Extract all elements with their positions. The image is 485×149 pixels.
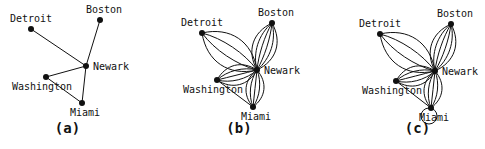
panel-b: DetroitBostonNewarkWashingtonMiami(b) [181, 7, 300, 136]
panel-a: DetroitBostonNewarkWashingtonMiami(a) [10, 4, 129, 136]
node-label-boston: Boston [437, 8, 473, 19]
node-label-detroit: Detroit [359, 18, 401, 29]
edge-detroit-newark [202, 31, 257, 70]
node-newark [254, 67, 260, 73]
edge-boston-newark [257, 23, 272, 70]
node-newark [83, 63, 89, 69]
edge-washington-newark [46, 66, 86, 77]
node-boston [269, 20, 275, 26]
node-miami [428, 105, 434, 111]
edge-detroit-newark [380, 34, 435, 71]
edge-boston-newark [257, 23, 272, 70]
node-miami [250, 104, 256, 110]
edge-detroit-newark [380, 32, 435, 71]
edge-boston-newark [86, 20, 100, 66]
panel-caption: (b) [226, 120, 251, 136]
node-detroit [28, 26, 34, 32]
panel-c: DetroitBostonNewarkWashingtonMiami(c) [359, 8, 478, 136]
node-washington [214, 77, 220, 83]
graph-figure: DetroitBostonNewarkWashingtonMiami(a) De… [0, 0, 485, 149]
node-label-washington: Washington [12, 81, 72, 92]
edge-boston-newark [435, 24, 451, 71]
node-label-newark: Newark [442, 66, 478, 77]
panel-caption: (a) [55, 120, 80, 136]
node-boston [97, 17, 103, 23]
node-boston [448, 21, 454, 27]
node-label-newark: Newark [93, 61, 129, 72]
node-label-detroit: Detroit [181, 17, 223, 28]
node-label-washington: Washington [183, 84, 243, 95]
edge-boston-newark [435, 24, 451, 71]
node-detroit [377, 31, 383, 37]
node-label-boston: Boston [258, 7, 294, 18]
panel-caption: (c) [405, 120, 430, 136]
edge-newark-miami [82, 66, 86, 103]
node-washington [393, 78, 399, 84]
node-label-boston: Boston [86, 4, 122, 15]
node-label-detroit: Detroit [10, 13, 52, 24]
node-washington [43, 74, 49, 80]
node-label-newark: Newark [264, 65, 300, 76]
node-miami [79, 100, 85, 106]
node-label-washington: Washington [362, 85, 422, 96]
edge-detroit-newark [202, 33, 257, 70]
edge-detroit-newark [380, 34, 435, 71]
node-detroit [199, 30, 205, 36]
node-label-miami: Miami [70, 107, 100, 118]
edge-detroit-newark [202, 33, 257, 70]
edge-detroit-newark [31, 29, 86, 66]
node-newark [432, 68, 438, 74]
